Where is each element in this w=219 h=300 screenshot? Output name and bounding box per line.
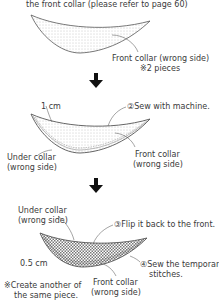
seam-allowance-label: 0.5 cm: [20, 259, 47, 269]
flip-instruction: ③Flip it back to the front.: [114, 220, 215, 230]
under-collar-side: (wrong side): [7, 163, 57, 173]
front-collar-side: (wrong side): [91, 288, 141, 298]
down-arrow-icon: [89, 73, 103, 88]
seam-allowance-label: 1 cm: [41, 102, 61, 112]
under-collar-side: (wrong side): [18, 216, 68, 226]
diagram-drawings: [0, 0, 219, 300]
front-collar-shape: [31, 15, 150, 53]
sew-stitches-instruction-cont: stitches.: [149, 270, 183, 280]
down-arrow-icon: [89, 178, 103, 193]
pieces-note: ※2 pieces: [140, 64, 180, 74]
sew-instruction: ②Sew with machine.: [127, 102, 210, 112]
create-another-note: ※Create another of: [4, 281, 81, 291]
front-collar-label: Front collar: [135, 150, 180, 160]
sew-stitches-instruction: ④Sew the temporary: [140, 260, 219, 270]
under-collar-label: Under collar: [7, 153, 56, 163]
create-another-note-cont: the same piece.: [14, 291, 78, 300]
front-collar-side: (wrong side): [133, 160, 183, 170]
front-collar-label: Front collar (wrong side): [112, 54, 209, 64]
under-collar-label: Under collar: [18, 206, 67, 216]
front-collar-label: Front collar: [93, 278, 138, 288]
sewn-collar-shape: [31, 106, 150, 155]
step1-caption: the front collar (please refer to page 6…: [26, 0, 188, 10]
